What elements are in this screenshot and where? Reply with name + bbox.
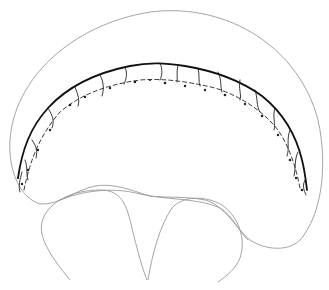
specimen-drawing: [0, 0, 329, 290]
specimen-illustration: [0, 0, 329, 290]
vein-band-outer-edge: [18, 63, 307, 190]
outer-shell-outline: [10, 11, 323, 249]
left-lower-lobe: [41, 190, 147, 280]
vein-band-inner-edge: [24, 79, 300, 190]
inner-notch-contour: [60, 190, 248, 240]
vein-cross-branches: [19, 63, 306, 195]
right-lower-lobe: [148, 198, 242, 282]
